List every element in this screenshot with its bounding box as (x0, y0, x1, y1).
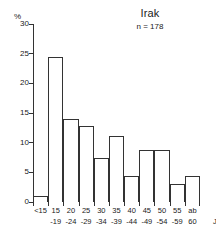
bar[interactable] (170, 184, 185, 202)
x-axis-tick-label: ab60 (181, 206, 204, 227)
bar[interactable] (109, 136, 124, 202)
y-axis-tick (29, 53, 34, 54)
bar[interactable] (48, 57, 63, 202)
y-axis-tick-label: 10 (12, 139, 29, 147)
y-axis-tick-label: 5 (12, 168, 29, 176)
bar[interactable] (79, 126, 94, 202)
bar[interactable] (94, 158, 109, 203)
y-axis-tick (29, 24, 34, 25)
y-axis-tick (29, 83, 34, 84)
page-title: Irak (95, 7, 205, 20)
y-axis-tick (29, 142, 34, 143)
y-axis-tick-label: 30 (12, 20, 29, 28)
y-axis-tick-label: 20 (12, 79, 29, 87)
bar[interactable] (185, 176, 200, 202)
plot-area (33, 24, 200, 202)
y-axis-tick (29, 172, 34, 173)
x-axis-labels: Jahre <1515-1920-2425-2930-3435-3940-444… (33, 206, 205, 238)
bar[interactable] (124, 176, 139, 202)
chart-page: Irak n = 178 % 051015202530 Jahre <1515-… (0, 0, 216, 243)
y-axis-tick-label: 25 (12, 50, 29, 58)
y-axis-tick-label: 15 (12, 109, 29, 117)
y-axis-labels: 051015202530 (11, 24, 29, 202)
bar-series (33, 24, 200, 202)
bar[interactable] (139, 150, 154, 202)
y-axis-tick-label: 0 (12, 198, 29, 206)
bar[interactable] (154, 150, 169, 202)
y-axis-tick (29, 113, 34, 114)
x-axis-unit-label: Jahre (213, 217, 216, 227)
bar[interactable] (63, 119, 78, 202)
